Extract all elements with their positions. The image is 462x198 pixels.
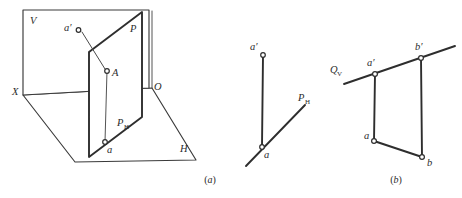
node-b-b (420, 155, 425, 160)
label-b-b: b (427, 157, 432, 168)
label-h-plane: H (179, 143, 189, 154)
panel-b-line-projection: Q V a′ b′ a b (b) (330, 41, 455, 186)
label-b-b-prime: b′ (415, 41, 423, 52)
node-b-b-prime (419, 56, 424, 61)
label-p-trace-sub: H (124, 123, 129, 131)
node-point-A (105, 69, 110, 74)
trace-line-q-v (344, 46, 455, 84)
label-q-trace-sub: V (337, 70, 342, 78)
technical-drawing-canvas: V H X O P A a′ a P H (a) a′ a P (0, 0, 462, 198)
label-b-a-prime: a′ (367, 57, 375, 68)
figure-container: V H X O P A a′ a P H (a) a′ a P (0, 0, 462, 198)
node-b-a-prime (373, 72, 378, 77)
label-point-A: A (111, 67, 119, 78)
panel-a-pictorial: V H X O P A a′ a P H (a) (11, 10, 216, 186)
label-p-trace-base: P (116, 117, 124, 128)
caption-panel-b: (b) (390, 174, 402, 186)
recall-line-b-aprime-a (374, 74, 375, 141)
caption-panel-a: (a) (204, 174, 216, 186)
panel-middle-point-projection: a′ a P H (246, 41, 310, 166)
node-b-a (372, 139, 377, 144)
trace-line-p-h (246, 105, 305, 166)
node-mid-a-prime (261, 53, 266, 58)
label-a-lower: a (107, 144, 112, 155)
label-origin-o: O (154, 81, 162, 92)
label-mid-p-trace-base: P (297, 92, 305, 103)
label-mid-p-trace-sub: H (305, 98, 310, 106)
label-p-plane: P (129, 23, 137, 34)
label-x-axis: X (11, 86, 19, 97)
node-a-prime-a (76, 28, 81, 33)
label-b-a: a (364, 130, 369, 141)
label-a-prime: a′ (64, 22, 72, 33)
label-mid-a: a (264, 149, 269, 160)
recall-line-aprime-a (262, 56, 263, 146)
recall-line-b-bprime-b (421, 58, 422, 157)
segment-a-b-horizontal (374, 141, 422, 157)
label-mid-a-prime: a′ (250, 41, 258, 52)
